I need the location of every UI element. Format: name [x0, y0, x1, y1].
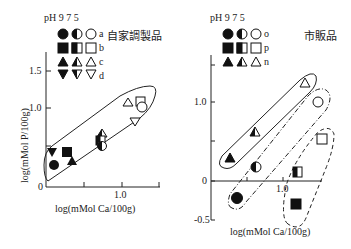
left-ph-header: pH 9 7 5: [44, 12, 79, 23]
point-c-ph5: [123, 98, 133, 106]
legend-d: d: [99, 70, 104, 81]
point-a-ph5: [137, 102, 147, 112]
left-x-tick-1.0: 1.0: [114, 189, 127, 200]
left-legend: [58, 29, 96, 79]
right-x-tick-1.0: 1.0: [276, 183, 289, 194]
right-chart: [211, 55, 334, 227]
right-y-tick-0: 0: [202, 175, 207, 186]
legend-b: b: [99, 42, 104, 53]
right-y-tick-1.0: 1.0: [194, 96, 207, 107]
point-b-ph9: [62, 147, 72, 157]
point-o-ph5: [313, 97, 323, 107]
point-d-ph9: [47, 148, 57, 157]
point-o-ph9: [232, 193, 243, 204]
left-y-tick-0: 0: [38, 181, 43, 192]
left-title: 自家調製品: [107, 27, 162, 43]
left-y-tick-1.5: 1.5: [29, 65, 42, 76]
point-n-ph9: [225, 153, 235, 162]
legend-c: c: [99, 56, 103, 67]
legend-o: o: [264, 28, 269, 39]
right-y-tick-neg0.5: -0.5: [194, 214, 210, 225]
point-p-ph5: [317, 134, 327, 144]
right-enclosure-n: [219, 74, 316, 169]
right-title: 市販品: [304, 27, 337, 43]
point-d-ph5: [130, 118, 140, 126]
legend-p: p: [264, 42, 269, 53]
right-ph-header: pH 9 7 5: [210, 12, 245, 23]
left-points: [47, 97, 147, 170]
point-p-ph9: [291, 199, 301, 209]
legend-n: n: [264, 56, 269, 67]
left-x-label: log(mMol Ca/100g): [55, 203, 135, 214]
point-c-ph9: [67, 156, 77, 165]
left-y-label: log(mMol P/100g): [19, 108, 30, 183]
left-y-tick-1.0: 1.0: [29, 102, 42, 113]
legend-a: a: [99, 28, 103, 39]
point-a-ph9: [49, 160, 59, 170]
right-x-label: log(mMol Ca/100g): [230, 226, 310, 237]
right-legend: [223, 29, 261, 66]
figure: [0, 0, 351, 249]
